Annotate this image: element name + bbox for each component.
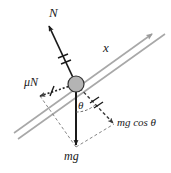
block-on-incline xyxy=(68,76,84,92)
mgcos-tick-1 xyxy=(90,97,99,103)
label-angle-theta: θ xyxy=(78,100,83,111)
free-body-diagram: N x μN θ mg cos θ mg xyxy=(0,0,171,173)
friction-force-tick-1 xyxy=(50,86,54,96)
vector-normal-force xyxy=(49,26,76,84)
label-weight-normal-component: mg cos θ xyxy=(117,117,156,128)
construction-line-to-mgcos xyxy=(76,124,114,147)
normal-force-arrow xyxy=(49,26,76,84)
label-axis-x: x xyxy=(103,41,109,54)
construction-line-to-friction xyxy=(40,96,76,147)
label-friction-force: μN xyxy=(24,76,38,88)
label-normal-force: N xyxy=(49,6,58,19)
label-weight: mg xyxy=(64,150,79,162)
